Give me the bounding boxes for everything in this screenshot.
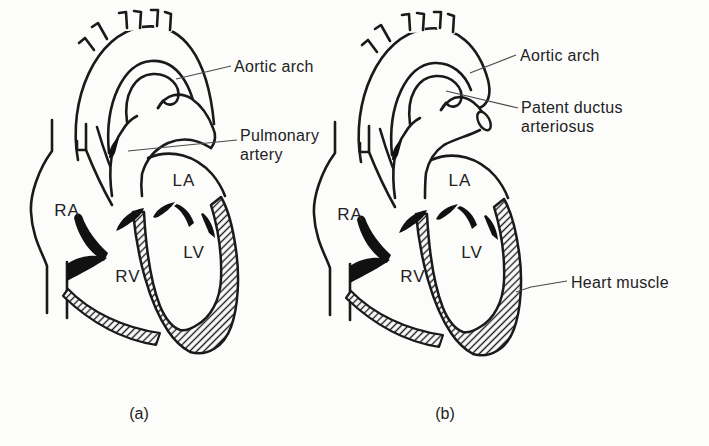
annotation-pulmonary-artery-a: Pulmonary artery [240,126,340,164]
figure-heart-diagram: Aortic arch Pulmonary artery RA LA LV RV… [0,0,709,446]
pulmonary-artery-a [110,74,215,196]
chamber-label-lv-b: LV [461,243,483,263]
heart-a-drawing [31,10,238,353]
chamber-label-rv-b: RV [400,267,425,287]
panel-caption-b: (b) [435,405,455,423]
rv-wall-b [346,291,443,347]
panel-caption-a: (a) [129,405,149,423]
pulmonary-artery-b [393,76,493,198]
leader-aortic-arch-b [470,55,516,73]
chamber-label-ra-a: RA [54,201,80,221]
annotation-heart-muscle-b: Heart muscle [571,273,669,292]
chamber-label-rv-a: RV [115,267,140,287]
leader-heart-muscle-b [516,281,567,292]
heart-muscle-wall-a [133,197,238,353]
annotation-patent-ductus-b: Patent ductus arteriosus [521,98,646,136]
leader-aortic-arch-a [176,66,231,79]
annotation-aortic-arch-b: Aortic arch [520,46,600,65]
chamber-label-ra-b: RA [337,205,363,225]
chamber-label-la-a: LA [173,171,196,191]
rv-wall-a [63,289,160,345]
heart-b-drawing [314,12,521,355]
annotation-aortic-arch-a: Aortic arch [234,57,314,76]
chamber-label-lv-a: LV [183,243,205,263]
heart-muscle-wall-b [416,199,521,355]
chamber-label-la-b: LA [449,171,472,191]
